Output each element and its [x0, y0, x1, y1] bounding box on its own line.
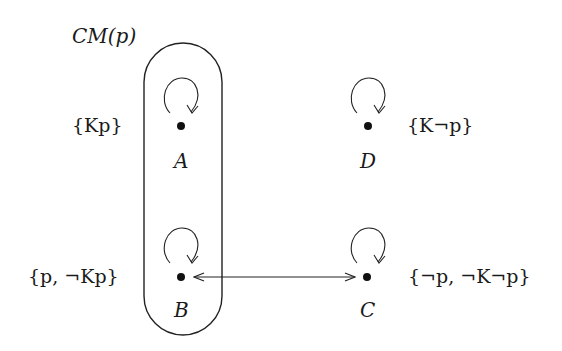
- valuation-D: {K¬p}: [407, 116, 473, 135]
- valuation-A: {Kp}: [72, 116, 123, 135]
- loop-D: [351, 78, 385, 113]
- node-B: [177, 273, 185, 281]
- loop-B: [164, 228, 198, 263]
- region-label: CM(p): [72, 26, 136, 46]
- node-label-D: D: [360, 151, 376, 171]
- node-label-B: B: [174, 300, 189, 320]
- loop-C: [351, 228, 385, 263]
- node-label-A: A: [174, 151, 188, 171]
- valuation-B: {p, ¬Kp}: [28, 267, 119, 286]
- valuation-C: {¬p, ¬K¬p}: [408, 267, 531, 286]
- diagram-canvas: [0, 0, 562, 351]
- node-C: [363, 273, 371, 281]
- node-A: [177, 122, 185, 130]
- node-label-C: C: [360, 300, 375, 320]
- node-D: [364, 122, 372, 130]
- cm-region-capsule: [144, 43, 222, 335]
- loop-A: [164, 78, 198, 113]
